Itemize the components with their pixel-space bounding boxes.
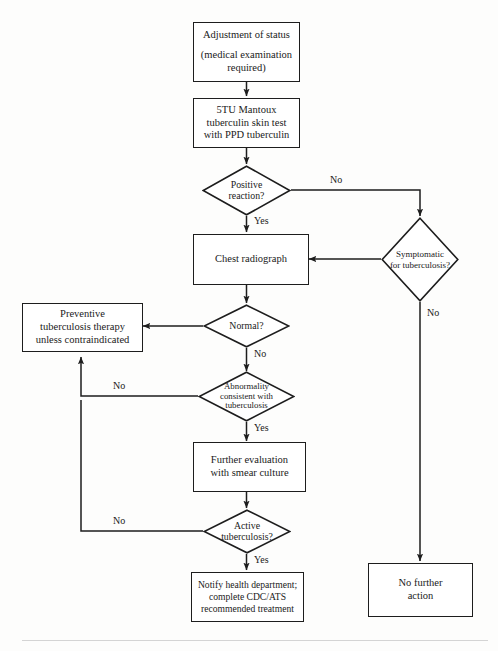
node-chest-radiograph[interactable]: Chest radiograph	[193, 234, 309, 285]
node-line: Chest radiograph	[215, 253, 287, 266]
node-line: with PPD tuberculin	[204, 129, 290, 142]
node-line: tuberculosis therapy	[36, 321, 130, 334]
node-further-evaluation[interactable]: Further evaluation with smear culture	[193, 442, 306, 492]
node-adjustment-of-status[interactable]: Adjustment of status (medical examinatio…	[193, 22, 300, 82]
flowchart-canvas: Adjustment of status (medical examinatio…	[0, 0, 498, 651]
node-line: tuberculosis?	[203, 532, 291, 543]
node-abnormality-consistent-with-tuberculosis[interactable]: Abnormality consistent with tuberculosis	[198, 371, 295, 422]
node-notify-health-department[interactable]: Notify health department; complete CDC/A…	[191, 572, 304, 622]
node-line: reaction?	[202, 191, 291, 202]
page-scan-artifact	[22, 640, 488, 641]
edge-label-positive-no: No	[330, 174, 342, 185]
node-line: tuberculin skin test	[204, 117, 290, 130]
node-line: for tuberculosis?	[381, 260, 459, 270]
node-line: tuberculosis	[198, 401, 295, 411]
edge-label-active-no: No	[113, 515, 125, 526]
node-line: Adjustment of status	[201, 29, 292, 42]
node-no-further-action[interactable]: No further action	[368, 563, 473, 617]
node-line: Normal?	[203, 321, 290, 332]
node-line: Further evaluation	[210, 454, 288, 467]
node-line-gap	[201, 42, 292, 49]
edge-label-abnormality-no: No	[113, 380, 125, 391]
node-line: action	[398, 590, 442, 603]
node-mantoux-skin-test[interactable]: 5TU Mantoux tuberculin skin test with PP…	[193, 98, 300, 148]
node-line: No further	[398, 577, 442, 590]
node-line: with smear culture	[210, 467, 288, 480]
node-line: Preventive	[36, 308, 130, 321]
node-line: complete CDC/ATS	[198, 591, 297, 603]
node-line: Active	[203, 521, 291, 532]
edge-label-symptomatic-no: No	[427, 307, 439, 318]
node-line: 5TU Mantoux	[204, 104, 290, 117]
edge-label-positive-yes: Yes	[254, 215, 269, 226]
node-line: required)	[201, 62, 292, 75]
node-line: recommended treatment	[198, 603, 297, 615]
node-line: Symptomatic	[381, 249, 459, 259]
node-line: unless contraindicated	[36, 334, 130, 347]
node-preventive-therapy[interactable]: Preventive tuberculosis therapy unless c…	[22, 303, 143, 352]
node-line: Notify health department;	[198, 579, 297, 591]
edge-label-abnormality-yes: Yes	[254, 422, 269, 433]
node-line: Positive	[202, 180, 291, 191]
edge-label-normal-no: No	[254, 348, 266, 359]
node-symptomatic-for-tuberculosis[interactable]: Symptomatic for tuberculosis?	[381, 217, 459, 302]
edge-label-active-yes: Yes	[254, 554, 269, 565]
node-line: (medical examination	[201, 49, 292, 62]
node-active-tuberculosis[interactable]: Active tuberculosis?	[203, 509, 291, 554]
node-positive-reaction[interactable]: Positive reaction?	[202, 165, 291, 216]
node-normal[interactable]: Normal?	[203, 304, 290, 348]
